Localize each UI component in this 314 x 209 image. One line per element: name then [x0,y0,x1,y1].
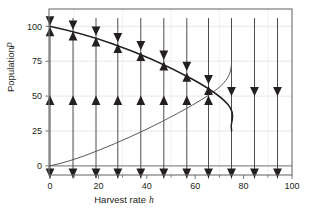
y-tick-label-50: 50 [32,91,42,101]
x-tick-label-60: 60 [190,181,200,191]
y-tick-label-25: 25 [32,126,42,136]
y-axis-title-symbol: P [6,42,16,49]
x-tick-label-20: 20 [93,181,103,191]
y-tick-label-100: 100 [27,22,42,32]
plot-svg: 0 25 50 75 100 0 20 40 60 [0,0,314,209]
y-axis-title-text: Population [5,47,16,92]
x-axis-title: Harvest rate h [94,194,154,205]
y-tick-label-0: 0 [37,161,42,171]
x-axis-title-text: Harvest rate [94,194,146,205]
x-tick-label-80: 80 [239,181,249,191]
bifurcation-diagram-figure: 0 25 50 75 100 0 20 40 60 [0,0,314,209]
x-tick-label-40: 40 [142,181,152,191]
x-tick-label-100: 100 [284,181,299,191]
x-tick-label-0: 0 [47,181,52,191]
y-axis-title: Population P [5,42,16,92]
x-axis-title-symbol: h [149,195,154,205]
y-tick-label-75: 75 [32,56,42,66]
